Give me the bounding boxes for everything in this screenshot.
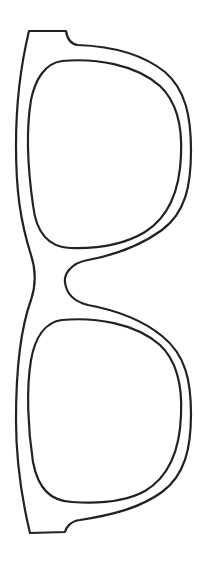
lower-lens xyxy=(28,319,181,502)
upper-lens xyxy=(28,60,181,248)
sunglasses-drawing xyxy=(0,0,206,570)
sunglasses-illustration: Line-art outline of a pair of sunglasses… xyxy=(0,0,206,570)
outer-frame xyxy=(16,31,191,533)
